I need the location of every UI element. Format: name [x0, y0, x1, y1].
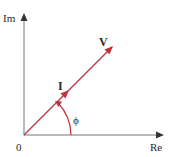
axis-arrowhead-icon	[21, 13, 28, 21]
re-axis-label: Re	[150, 141, 162, 153]
phasor-diagram: Im Re 0 V I ϕ	[0, 0, 170, 157]
axis-arrowhead-icon	[156, 132, 164, 139]
angle-arc	[55, 101, 71, 135]
angle-phi-label: ϕ	[73, 114, 79, 126]
phasor-v-label: V	[99, 35, 108, 49]
im-axis-label: Im	[3, 12, 16, 24]
real-axis	[24, 132, 164, 139]
phasor-i-label: I	[58, 79, 63, 93]
origin-label: 0	[16, 141, 22, 153]
imaginary-axis	[21, 13, 28, 135]
